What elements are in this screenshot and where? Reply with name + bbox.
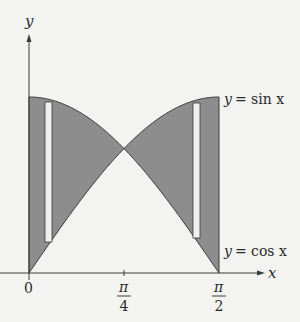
- tick-label-pi2-den: 2: [215, 298, 224, 314]
- shaded-region: [29, 97, 219, 273]
- left-strip: [45, 102, 52, 242]
- label-cos-rhs: = cos x: [235, 243, 287, 259]
- label-sin-rhs: = sin x: [235, 91, 284, 107]
- y-axis-arrow-icon: [27, 34, 32, 42]
- y-axis-label: y: [24, 12, 34, 30]
- label-cos-lhs: y: [223, 243, 233, 259]
- tick-label-pi4-num: π: [118, 279, 129, 295]
- right-strip: [193, 103, 200, 238]
- tick-label-pi4-den: 4: [120, 298, 129, 314]
- label-sin-curve: y= sin x: [223, 91, 284, 107]
- x-axis-arrow-icon: [257, 271, 265, 276]
- label-cos-curve: y= cos x: [223, 243, 287, 259]
- label-sin-lhs: y: [223, 91, 233, 107]
- figure-canvas: y x 0 π 4 π 2 y= sin x y= cos x: [0, 0, 300, 322]
- tick-label-pi2-num: π: [213, 279, 224, 295]
- x-axis-label: x: [268, 264, 277, 282]
- tick-label-0: 0: [24, 280, 33, 296]
